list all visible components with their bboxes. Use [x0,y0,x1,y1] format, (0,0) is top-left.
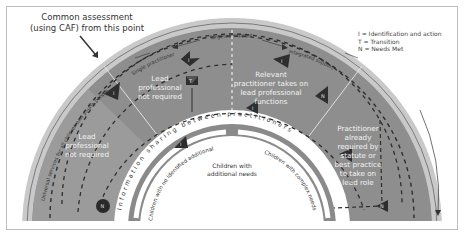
needs-met-marker-left: N [96,199,110,213]
segment-far-right-line-5: best practice [322,160,394,169]
svg-text:N: N [321,93,325,99]
segment-far-right-line-3: required by [322,142,394,151]
segment-far-right-line-7: lead role [322,178,394,187]
legend: I = Identification and action T = Transi… [358,30,442,53]
svg-text:I: I [188,57,189,63]
segment-mid-right-label: Relevant practitioner takes on lead prof… [228,70,314,106]
svg-text:N: N [380,203,384,209]
segment-mid-right-line-3: lead professional [228,88,314,97]
segment-far-right-line-2: already [322,133,394,142]
common-assessment-caption: Common assessment (using CAF) from this … [22,12,152,34]
segment-far-left-line-3: not required [52,150,122,159]
segment-far-left-line-2: professional [52,141,122,150]
additional-needs-label-1: Children with [212,162,252,169]
legend-item-identification: I = Identification and action [358,30,442,38]
legend-item-needs-met: N = Needs Met [358,45,442,53]
segment-mid-left-label: Lead professional not required [125,74,195,101]
caption-line-1: Common assessment [22,12,152,23]
svg-text:I: I [180,141,181,147]
svg-text:I: I [281,58,282,64]
additional-needs-label-2: additional needs [207,170,257,177]
segment-mid-left-line-3: not required [125,92,195,101]
svg-text:N: N [101,203,105,209]
svg-text:I: I [113,90,114,96]
segment-far-right-label: Practitioner already required by statute… [322,124,394,187]
diagram-container: I I I T I I [0,0,464,233]
legend-item-transition: T = Transition [358,38,442,46]
segment-mid-right-line-2: practitioner takes on [228,79,314,88]
segment-mid-right-line-4: functions [228,97,314,106]
segment-far-left-label: Lead professional not required [52,132,122,159]
segment-far-right-line-6: to take on [322,169,394,178]
segment-far-right-line-4: statute or [322,151,394,160]
segment-far-right-line-1: Practitioner [322,124,394,133]
caption-line-2: (using CAF) from this point [22,23,152,34]
segment-far-left-line-1: Lead [52,132,122,141]
segment-mid-left-line-2: professional [125,83,195,92]
segment-mid-right-line-1: Relevant [228,70,314,79]
segment-mid-left-line-1: Lead [125,74,195,83]
